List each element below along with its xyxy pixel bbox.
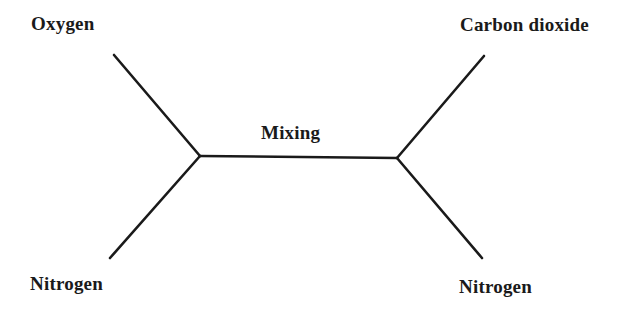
mixing-line <box>200 156 397 158</box>
mixing-label: Mixing <box>261 123 320 142</box>
nitrogen-input-line <box>110 156 200 258</box>
oxygen-label: Oxygen <box>31 14 94 33</box>
diagram-lines <box>0 0 640 313</box>
carbon-dioxide-label: Carbon dioxide <box>460 15 589 34</box>
carbon-dioxide-output-line <box>397 56 484 158</box>
oxygen-input-line <box>114 55 200 156</box>
nitrogen-input-label: Nitrogen <box>30 274 103 293</box>
gas-mixing-diagram: Oxygen Carbon dioxide Mixing Nitrogen Ni… <box>0 0 640 313</box>
nitrogen-output-line <box>397 158 482 258</box>
nitrogen-output-label: Nitrogen <box>459 277 532 296</box>
